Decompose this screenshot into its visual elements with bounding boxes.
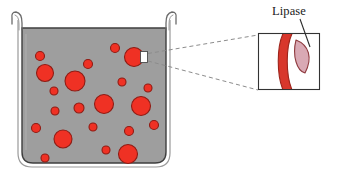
fat-droplet xyxy=(89,123,97,131)
fat-droplet xyxy=(150,121,159,130)
fat-droplet xyxy=(50,87,58,95)
lipase-label: Lipase xyxy=(272,4,306,19)
fat-droplet xyxy=(111,44,120,53)
fat-droplet xyxy=(125,127,134,136)
fat-droplet xyxy=(144,84,152,92)
fat-droplet xyxy=(95,95,114,114)
fat-droplet xyxy=(84,60,93,69)
fat-droplet xyxy=(74,103,84,113)
magnified-view xyxy=(259,30,320,94)
fat-droplet xyxy=(54,130,72,148)
fat-droplet xyxy=(118,78,126,86)
fat-droplet xyxy=(41,154,49,162)
fat-droplet xyxy=(119,145,138,164)
fat-droplet xyxy=(51,107,59,115)
fat-droplet xyxy=(65,71,85,91)
fat-droplet xyxy=(132,97,151,116)
fat-droplet xyxy=(102,146,110,154)
beaker-liquid-body xyxy=(22,28,166,163)
fat-droplet xyxy=(36,52,45,61)
magnify-marker xyxy=(141,52,148,63)
fat-droplet xyxy=(32,124,41,133)
fat-droplet xyxy=(37,65,54,82)
figure-canvas xyxy=(0,0,337,183)
